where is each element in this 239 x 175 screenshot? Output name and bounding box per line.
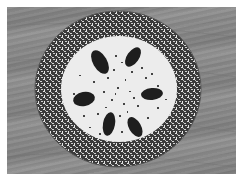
plate-scene: [7, 7, 236, 174]
photo: [7, 7, 236, 174]
